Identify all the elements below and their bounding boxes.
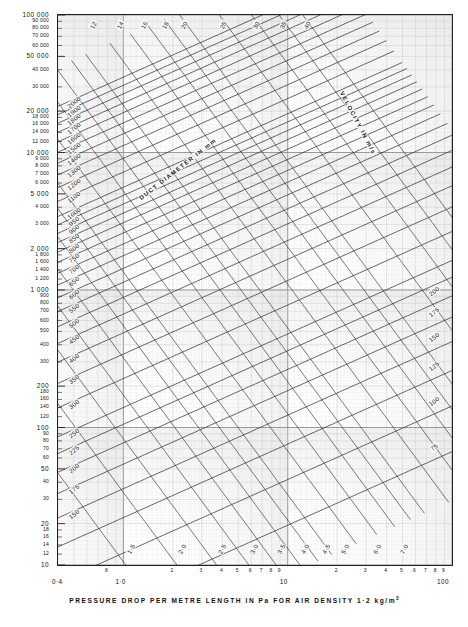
y-tick-label: 1 800 [35, 251, 49, 257]
y-tick-label: 500 [40, 327, 49, 333]
y-tick-label: 400 [40, 341, 49, 347]
y-tick-label: 3 000 [35, 220, 49, 226]
y-tick-label: 30 [43, 495, 49, 501]
y-tick-label: 700 [40, 307, 49, 313]
x-tick-label: 9 [442, 567, 445, 573]
y-tick-label: 180 [40, 388, 49, 394]
y-tick-label: 800 [40, 299, 49, 305]
y-tick-label: 8 000 [35, 162, 49, 168]
y-tick-label: 120 [40, 413, 49, 419]
x-major-tick-label: 0·4 [52, 578, 62, 585]
y-tick-label: 80 [43, 437, 49, 443]
x-tick-label: 4 [384, 567, 387, 573]
x-axis-title-text: PRESSURE DROP PER METRE LENGTH IN Pa FOR… [69, 597, 396, 604]
plot-area: 2000190018001700160015001400130012001100… [57, 14, 453, 566]
y-tick-label: 9 000 [35, 155, 49, 161]
y-tick-label: 5 000 [31, 189, 50, 196]
y-tick-label: 40 [43, 478, 49, 484]
grid-and-curves [58, 15, 452, 565]
y-tick-label: 90 000 [32, 17, 49, 23]
y-tick-label: 1 400 [35, 266, 49, 272]
y-tick-label: 7 000 [35, 170, 49, 176]
x-tick-label: 3 [364, 567, 367, 573]
y-tick-label: 14 [43, 541, 49, 547]
y-tick-label: 60 [43, 454, 49, 460]
x-tick-label: 7 [260, 567, 263, 573]
y-tick-label: 80 000 [32, 24, 49, 30]
y-tick-label: 160 [40, 395, 49, 401]
x-axis-title-exponent: 3 [396, 596, 399, 601]
x-tick-label: 8 [269, 567, 272, 573]
x-major-tick-label: 100 [437, 578, 449, 585]
x-tick-label: 9 [278, 567, 281, 573]
y-axis-tick-labels: 100 00090 00080 00070 00060 00050 00040 … [0, 14, 53, 566]
x-tick-label: 6 [413, 567, 416, 573]
y-tick-label: 60 000 [32, 42, 49, 48]
y-tick-label: 300 [40, 358, 49, 364]
x-tick-label: 6 [249, 567, 252, 573]
y-tick-label: 90 [43, 430, 49, 436]
y-tick-label: 30 000 [32, 83, 49, 89]
y-tick-label: 4 000 [35, 203, 49, 209]
y-tick-label: 16 000 [32, 120, 49, 126]
x-major-tick-label: 10 [280, 578, 288, 585]
x-tick-label: 2 [170, 567, 173, 573]
y-tick-label: 12 000 [32, 138, 49, 144]
y-tick-label: 14 000 [32, 128, 49, 134]
x-tick-label: 3 [199, 567, 202, 573]
y-tick-label: 50 000 [26, 52, 49, 59]
x-axis-major-tick-labels: 0·41·010100 [0, 578, 468, 590]
x-tick-label: 7 [424, 567, 427, 573]
y-tick-label: 50 [41, 464, 49, 471]
y-tick-label: 40 000 [32, 66, 49, 72]
x-tick-label: 4 [220, 567, 223, 573]
x-major-tick-label: 1·0 [115, 578, 125, 585]
x-tick-label: 8 [434, 567, 437, 573]
x-tick-label: 5 [400, 567, 403, 573]
y-tick-label: 12 [43, 550, 49, 556]
y-tick-label: 1 200 [35, 275, 49, 281]
x-tick-label: 2 [335, 567, 338, 573]
y-tick-label: 70 [43, 445, 49, 451]
y-tick-label: 10 [41, 561, 49, 568]
y-tick-label: 600 [40, 317, 49, 323]
x-axis-minor-tick-labels: 23456789234567898 [57, 567, 453, 577]
y-tick-label: 18 000 [32, 113, 49, 119]
y-tick-label: 70 000 [32, 32, 49, 38]
y-tick-label: 900 [40, 292, 49, 298]
y-tick-label: 6 000 [35, 179, 49, 185]
y-tick-label: 140 [40, 403, 49, 409]
y-tick-label: 16 [43, 533, 49, 539]
x-axis-title: PRESSURE DROP PER METRE LENGTH IN Pa FOR… [0, 596, 468, 604]
x-tick-label: 5 [236, 567, 239, 573]
duct-sizing-chart: AIR QUANTITY IN LITRES PER SECOND 100 00… [0, 0, 468, 627]
x-tick-label: 8 [105, 567, 108, 573]
y-tick-label: 18 [43, 526, 49, 532]
y-tick-label: 1 600 [35, 258, 49, 264]
